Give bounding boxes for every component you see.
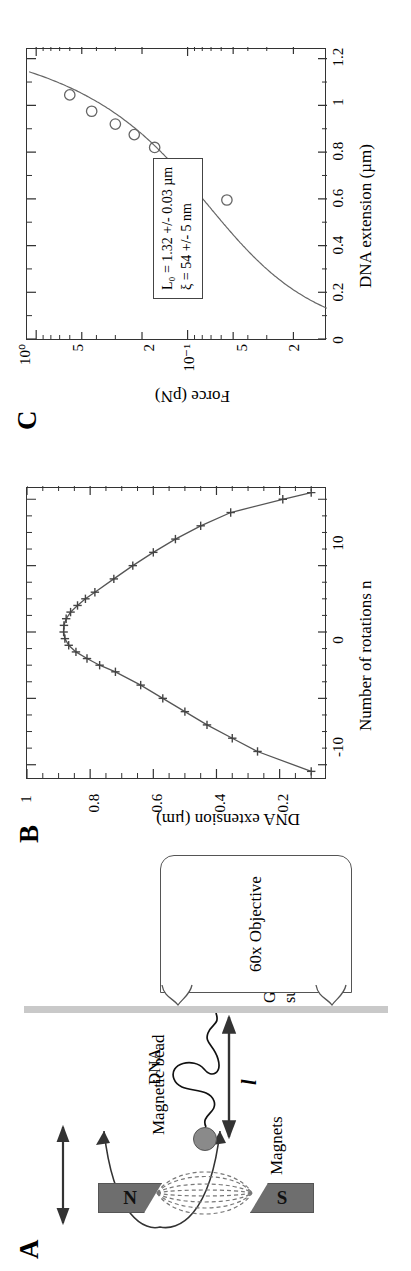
panel-letter-a: A	[14, 1240, 45, 1260]
panel-c-ytick-5: 5	[70, 344, 87, 392]
label-magnets: Magnets	[268, 1116, 286, 1175]
objective-neck	[156, 983, 356, 1009]
label-dna: DNA	[146, 1048, 164, 1085]
magnetic-field-lines	[155, 1165, 255, 1223]
figure-root: A N S	[0, 0, 411, 1271]
panel-c-ytick-1e0: 10⁰	[16, 344, 34, 392]
panel-b-ytick-08: 0.8	[86, 783, 103, 823]
panel-c-xtick-12: 1.2	[330, 41, 347, 73]
extension-arrow	[216, 1009, 242, 1145]
objective-body: 60x Objective	[160, 855, 352, 993]
panel-b-xaxis-title: Number of rotations n	[356, 580, 376, 731]
panel-b-xtick-0: 0	[330, 627, 347, 653]
objective-label: 60x Objective	[246, 876, 266, 972]
panel-b-chart: B 1 0.8 0.6 0.4 0.2 DNA extension (µm) -…	[0, 436, 411, 851]
panel-b-xtick-10: 10	[330, 527, 347, 559]
panel-b-ytick-1: 1	[18, 783, 35, 815]
panel-b-xtick-neg10: -10	[330, 727, 347, 767]
panel-c-xtick-08: 0.8	[330, 135, 347, 167]
panel-b-plot-area	[26, 487, 326, 779]
magnet-north-label: N	[123, 1187, 137, 1209]
panel-letter-b: B	[14, 825, 45, 843]
fit-param-xi: ξ = 54 +/- 5 nm	[178, 167, 197, 290]
panel-c-xaxis-title: DNA extension (µm)	[356, 144, 376, 288]
panel-c-ytick-2b: 2	[286, 344, 303, 392]
magnet-south-label: S	[277, 1187, 288, 1209]
magnet-translation-arrow	[50, 1111, 76, 1231]
panel-b-data-curve	[27, 486, 327, 778]
panel-c-xtick-0: 0	[330, 326, 347, 354]
panel-c-xtick-06: 0.6	[330, 182, 347, 214]
fit-param-L0: L₀ = 1.32 +/- 0.03 µm	[159, 167, 178, 290]
panel-c-xtick-1: 1	[330, 89, 347, 115]
panel-c-ytick-2: 2	[141, 344, 158, 392]
panel-b-yaxis-title: DNA extension (µm)	[156, 809, 300, 829]
panel-c-yaxis-title: Force (pN)	[155, 386, 230, 406]
panel-letter-c: C	[12, 411, 43, 431]
label-extension-l: l	[238, 1079, 261, 1085]
panel-c-xtick-02: 0.2	[330, 276, 347, 308]
panel-a-schematic: A N S	[0, 851, 411, 1271]
panel-c-ytick-5b: 5	[234, 344, 251, 392]
panel-c-fit-annotation: L₀ = 1.32 +/- 0.03 µm ξ = 54 +/- 5 nm	[153, 158, 203, 299]
panel-c-xtick-04: 0.4	[330, 229, 347, 261]
magnet-south: S	[250, 1183, 314, 1213]
panel-c-plot-area: L₀ = 1.32 +/- 0.03 µm ξ = 54 +/- 5 nm	[26, 48, 326, 340]
panel-c-chart: C L₀ = 1.32 +/- 0.03 µm ξ = 54 +/- 5 nm …	[0, 0, 411, 436]
